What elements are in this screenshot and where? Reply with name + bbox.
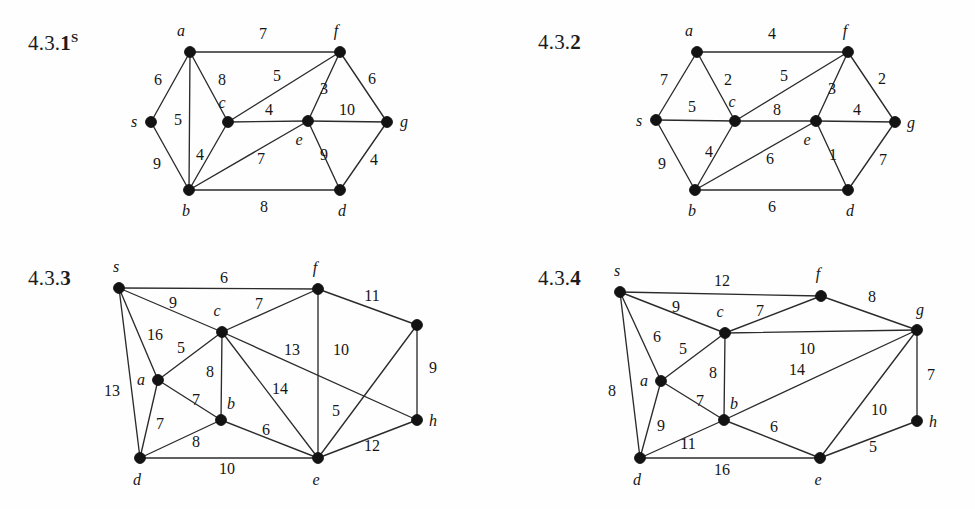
- graph-edge-s-d: [620, 292, 640, 458]
- graph-node-f: [816, 291, 827, 302]
- edge-weight-c-g: 10: [799, 340, 815, 358]
- edge-weight-e-h: 5: [869, 438, 877, 456]
- graph-node-g: [912, 325, 923, 336]
- graph-edge-c-g: [725, 330, 917, 333]
- graph-edge-c-f: [725, 296, 821, 333]
- graph-edge-s-f: [620, 292, 821, 296]
- graph-node-s: [615, 287, 626, 298]
- edge-weight-b-e: 6: [770, 418, 778, 436]
- edge-weight-b-g: 14: [789, 361, 805, 379]
- graph-node-d: [635, 453, 646, 464]
- vertex-label-a: a: [640, 372, 648, 390]
- graph-node-e: [815, 453, 826, 464]
- vertex-label-s: s: [614, 262, 620, 280]
- vertex-label-h: h: [929, 413, 937, 431]
- graph-node-c: [720, 328, 731, 339]
- graph-edge-b-g: [724, 330, 917, 420]
- edge-weight-g-e: 10: [871, 401, 887, 419]
- graph-edge-c-b: [724, 333, 725, 420]
- graph-node-h: [912, 416, 923, 427]
- graph-node-a: [656, 376, 667, 387]
- edge-weight-g-h: 7: [927, 366, 935, 384]
- graph-edge-a-b: [661, 381, 724, 420]
- edge-weight-s-d: 8: [608, 382, 616, 400]
- vertex-label-d: d: [633, 471, 641, 489]
- edge-weight-b-d: 11: [680, 435, 695, 453]
- figure-page: 4.3.1Sascbfegd76859454361079484.3.2ascbf…: [0, 0, 975, 509]
- edge-weight-a-d: 9: [657, 417, 665, 435]
- edge-weight-a-c: 5: [679, 340, 687, 358]
- edge-weight-c-f: 7: [756, 302, 764, 320]
- vertex-label-f: f: [816, 265, 820, 283]
- vertex-label-g: g: [916, 301, 924, 319]
- edge-weight-a-b: 7: [696, 392, 704, 410]
- edge-weight-s-a: 6: [653, 328, 661, 346]
- graph-node-b: [719, 415, 730, 426]
- edge-weight-f-g: 8: [868, 288, 876, 306]
- edge-weight-s-c: 9: [672, 298, 680, 316]
- edge-weight-c-b: 8: [709, 364, 717, 382]
- edge-weight-s-f: 12: [714, 272, 730, 290]
- graph-canvas: [0, 0, 975, 509]
- vertex-label-e: e: [814, 471, 821, 489]
- edge-weight-d-e: 16: [714, 461, 730, 479]
- vertex-label-c: c: [716, 303, 723, 321]
- vertex-label-b: b: [730, 395, 738, 413]
- graph-figure-fig-434: 4.3.4scabdfghe129685798710141168710165: [0, 0, 975, 509]
